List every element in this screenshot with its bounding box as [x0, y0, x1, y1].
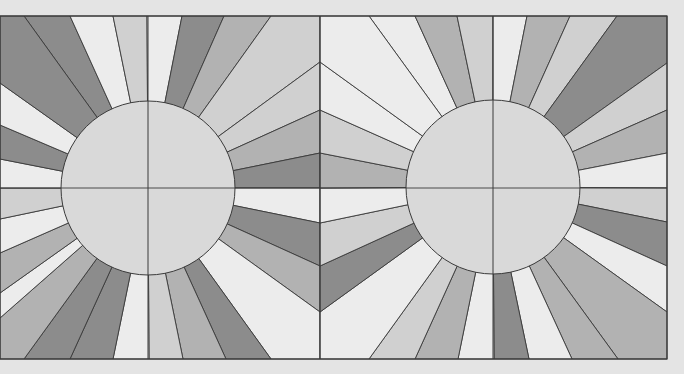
sunburst-quilt-illustration [0, 0, 684, 374]
sunburst-artwork [0, 0, 684, 374]
right-sunburst-panel [320, 16, 667, 359]
left-sunburst-panel [0, 16, 320, 359]
